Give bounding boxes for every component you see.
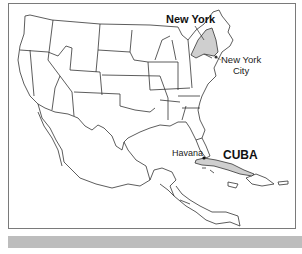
new-york-city-label-line2: City bbox=[221, 66, 261, 77]
bottom-bar bbox=[8, 236, 302, 248]
cuba-label: CUBA bbox=[223, 149, 258, 161]
new-york-label: New York bbox=[166, 14, 215, 25]
cuba-highlight bbox=[0, 0, 302, 254]
havana-label: Havana bbox=[172, 149, 203, 158]
new-york-city-label: New York City bbox=[221, 55, 261, 77]
